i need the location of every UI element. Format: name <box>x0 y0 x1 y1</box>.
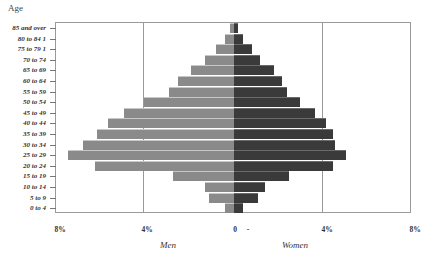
y-axis-tick <box>50 187 56 188</box>
y-axis-tick <box>50 81 56 82</box>
y-axis-tick <box>50 60 56 61</box>
bar-men <box>173 171 234 181</box>
bar-men <box>178 76 234 86</box>
bar-women <box>234 171 289 181</box>
y-axis-tick <box>50 28 56 29</box>
age-group-label: 80 to 84 1 <box>0 35 46 43</box>
age-group-label: 75 to 79 1 <box>0 45 46 53</box>
bar-women <box>234 193 258 203</box>
bar-men <box>97 129 234 139</box>
bar-men <box>225 34 234 44</box>
y-axis-tick <box>50 198 56 199</box>
bar-women <box>234 140 335 150</box>
y-axis-tick <box>50 166 56 167</box>
bar-men <box>205 55 234 65</box>
bar-women <box>234 97 300 107</box>
bar-men <box>95 161 235 171</box>
y-axis-tick <box>50 39 56 40</box>
bar-men <box>216 44 234 54</box>
bar-women <box>234 76 282 86</box>
age-group-label: 50 to 54 <box>0 98 46 106</box>
y-axis-tick <box>50 155 56 156</box>
y-axis-tick <box>50 92 56 93</box>
x-tick-men-4: 4% <box>141 225 152 234</box>
bar-women <box>234 161 333 171</box>
age-group-label: 40 to 44 <box>0 119 46 127</box>
bar-men <box>209 193 234 203</box>
y-axis-tick <box>50 70 56 71</box>
bar-women <box>234 203 243 213</box>
bar-women <box>234 55 260 65</box>
bar-women <box>234 129 333 139</box>
y-axis-tick <box>50 113 56 114</box>
age-group-label: 0 to 4 <box>0 204 46 212</box>
y-axis-tick <box>50 145 56 146</box>
x-tick-zero: 0 <box>233 225 237 234</box>
bar-men <box>108 118 234 128</box>
x-tick-women-4: 4% <box>321 225 332 234</box>
y-axis-tick <box>50 134 56 135</box>
bar-men <box>124 108 234 118</box>
age-group-label: 45 to 49 <box>0 109 46 117</box>
age-group-label: 30 to 34 <box>0 141 46 149</box>
age-group-label: 10 to 14 <box>0 183 46 191</box>
bar-women <box>234 34 243 44</box>
bar-men <box>83 140 234 150</box>
age-group-label: 20 to 24 <box>0 162 46 170</box>
age-group-label: 15 to 19 <box>0 172 46 180</box>
bar-men <box>225 203 234 213</box>
age-group-label: 85 and over <box>0 24 46 32</box>
bar-men <box>191 65 234 75</box>
age-group-label: 70 to 74 <box>0 56 46 64</box>
y-axis-tick <box>50 176 56 177</box>
bar-women <box>234 182 265 192</box>
bar-women <box>234 23 238 33</box>
bar-men <box>68 150 235 160</box>
bar-women <box>234 108 315 118</box>
age-group-label: 35 to 39 <box>0 130 46 138</box>
age-group-label: 5 to 9 <box>0 194 46 202</box>
y-axis-tick <box>50 208 56 209</box>
x-tick-women-8: 8% <box>409 225 420 234</box>
age-group-label: 60 to 64 <box>0 77 46 85</box>
bar-women <box>234 65 274 75</box>
y-axis-tick <box>50 123 56 124</box>
bar-women <box>234 118 326 128</box>
y-axis-title: Age <box>8 3 23 13</box>
age-group-label: 25 to 29 <box>0 151 46 159</box>
y-axis-tick <box>50 102 56 103</box>
group-label-women: Women <box>282 240 308 250</box>
bar-women <box>234 150 346 160</box>
y-axis-tick <box>50 49 56 50</box>
x-tick-dash: - <box>247 225 250 234</box>
bar-women <box>234 87 287 97</box>
bar-men <box>144 97 234 107</box>
age-group-label: 65 to 69 <box>0 66 46 74</box>
age-group-label: 55 to 59 <box>0 88 46 96</box>
bar-women <box>234 44 252 54</box>
x-tick-men-8: 8% <box>54 225 65 234</box>
bar-men <box>169 87 234 97</box>
bar-men <box>205 182 234 192</box>
group-label-men: Men <box>160 240 176 250</box>
